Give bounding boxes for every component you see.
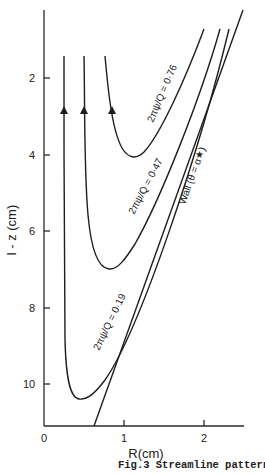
y-tick-label: 8 bbox=[29, 302, 35, 314]
y-tick-label: 6 bbox=[29, 225, 35, 237]
streamline-0-19 bbox=[64, 29, 229, 399]
y-ticks: 2 4 6 8 10 bbox=[23, 72, 50, 390]
y-tick-label: 2 bbox=[29, 72, 35, 84]
label-curve-0-76: 2πψ/Q = 0·76 bbox=[145, 62, 179, 123]
arrow-up-icon bbox=[80, 106, 88, 114]
streamline-chart: 2 4 6 8 10 0 1 2 R(cm) l - z (cm) 2πψ/Q … bbox=[0, 0, 265, 474]
y-tick-label: 4 bbox=[29, 149, 35, 161]
y-tick-label: 10 bbox=[23, 378, 35, 390]
streamline-0-76 bbox=[105, 29, 204, 157]
x-tick-label: 0 bbox=[41, 432, 47, 444]
y-axis-title: l - z (cm) bbox=[4, 205, 19, 256]
arrow-up-icon bbox=[60, 106, 68, 114]
x-tick-label: 1 bbox=[121, 432, 127, 444]
x-tick-label: 2 bbox=[201, 432, 207, 444]
x-ticks: 0 1 2 bbox=[41, 420, 207, 444]
label-curve-0-19: 2πψ/Q = 0·19 bbox=[91, 291, 128, 352]
arrow-up-icon bbox=[108, 106, 116, 114]
flow-arrow-icons bbox=[60, 106, 116, 114]
figure-caption: Fig.3 Streamline pattern bbox=[118, 459, 265, 471]
label-curve-0-47: 2πψ/Q = 0·47 bbox=[126, 156, 165, 216]
